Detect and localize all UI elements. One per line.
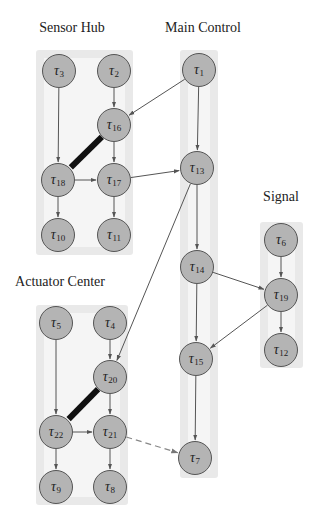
edge-14-to-15 <box>196 284 197 341</box>
task-graph-diagram: Sensor HubMain ControlSignalActuator Cen… <box>0 0 318 526</box>
node-index: 5 <box>57 321 62 331</box>
tau-symbol: τ <box>190 259 195 275</box>
edge-1-to-13 <box>197 87 198 150</box>
node-index: 19 <box>279 293 288 303</box>
task-node-tau-15: τ15 <box>179 342 213 376</box>
task-node-tau-14: τ14 <box>180 250 214 284</box>
edge-16-to-18-thick <box>71 137 102 167</box>
tau-symbol: τ <box>51 479 56 495</box>
task-node-tau-18: τ18 <box>41 163 75 197</box>
tau-symbol: τ <box>276 232 281 248</box>
task-node-tau-6: τ6 <box>264 223 298 257</box>
edge-20-to-22-thick <box>69 389 98 419</box>
task-node-tau-16: τ16 <box>97 108 131 142</box>
node-index: 11 <box>112 233 121 243</box>
tau-symbol: τ <box>107 117 112 133</box>
edge-3-to-18 <box>58 88 59 162</box>
edge-13-to-20 <box>117 184 191 361</box>
tau-symbol: τ <box>190 450 195 466</box>
node-index: 1 <box>200 68 205 78</box>
node-index: 7 <box>196 456 201 466</box>
edge-17-to-13 <box>131 171 179 178</box>
tau-symbol: τ <box>54 63 59 79</box>
node-index: 13 <box>195 166 204 176</box>
tau-symbol: τ <box>49 424 54 440</box>
task-node-tau-9: τ9 <box>39 470 73 504</box>
node-index: 12 <box>279 348 288 358</box>
task-node-tau-8: τ8 <box>93 470 127 504</box>
node-index: 8 <box>111 485 116 495</box>
task-node-tau-20: τ20 <box>93 360 127 394</box>
node-index: 15 <box>194 357 203 367</box>
task-node-tau-11: τ11 <box>97 218 131 252</box>
node-index: 14 <box>195 265 204 275</box>
task-node-tau-21: τ21 <box>93 415 127 449</box>
task-node-tau-4: τ4 <box>93 306 127 340</box>
node-index: 18 <box>56 178 65 188</box>
task-node-tau-2: τ2 <box>97 54 131 88</box>
task-node-tau-12: τ12 <box>264 333 298 367</box>
node-index: 21 <box>108 430 117 440</box>
tau-symbol: τ <box>103 369 108 385</box>
node-index: 6 <box>282 238 287 248</box>
tau-symbol: τ <box>274 287 279 303</box>
edge-21-to-7-dashed <box>126 437 178 453</box>
tau-symbol: τ <box>190 160 195 176</box>
node-index: 20 <box>108 375 117 385</box>
task-node-tau-17: τ17 <box>97 163 131 197</box>
tau-symbol: τ <box>51 227 56 243</box>
edge-19-to-15 <box>210 305 267 348</box>
node-index: 17 <box>112 178 121 188</box>
tau-symbol: τ <box>105 479 110 495</box>
task-node-tau-13: τ13 <box>180 151 214 185</box>
node-index: 4 <box>111 321 116 331</box>
task-node-tau-3: τ3 <box>42 54 76 88</box>
task-node-tau-22: τ22 <box>39 415 73 449</box>
tau-symbol: τ <box>105 315 110 331</box>
tau-symbol: τ <box>109 63 114 79</box>
tau-symbol: τ <box>107 172 112 188</box>
tau-symbol: τ <box>107 227 112 243</box>
tau-symbol: τ <box>274 342 279 358</box>
node-index: 2 <box>115 69 120 79</box>
node-index: 16 <box>112 123 121 133</box>
node-index: 9 <box>57 485 62 495</box>
task-node-tau-7: τ7 <box>178 441 212 475</box>
edge-1-to-16 <box>129 79 185 115</box>
task-node-tau-10: τ10 <box>41 218 75 252</box>
edge-14-to-19 <box>213 272 264 289</box>
node-index: 22 <box>54 430 63 440</box>
tau-symbol: τ <box>103 424 108 440</box>
task-node-tau-19: τ19 <box>264 278 298 312</box>
node-index: 3 <box>60 69 65 79</box>
node-index: 10 <box>56 233 65 243</box>
tau-symbol: τ <box>189 351 194 367</box>
tau-symbol: τ <box>51 172 56 188</box>
edge-15-to-7 <box>195 376 196 440</box>
task-node-tau-1: τ1 <box>182 53 216 87</box>
task-node-tau-5: τ5 <box>39 306 73 340</box>
tau-symbol: τ <box>194 62 199 78</box>
tau-symbol: τ <box>51 315 56 331</box>
